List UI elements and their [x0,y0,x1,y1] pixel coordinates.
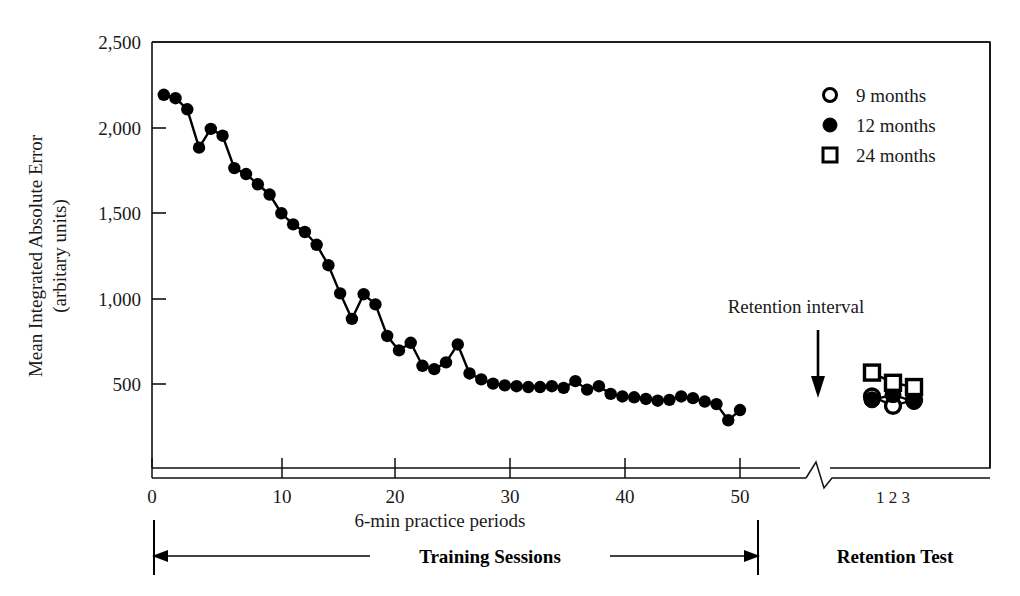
training-point [240,168,252,180]
training-point [722,414,734,426]
retention-trial-axis-labels: 1 2 3 [876,488,910,507]
legend-marker-open-circle [824,89,837,102]
training-point [522,381,534,393]
x-axis-tick-labels: 0 10 20 30 40 50 [147,486,749,507]
training-point [734,404,746,416]
training-point [557,382,569,394]
ret-12-months-point [864,392,880,408]
training-point [428,363,440,375]
x-tick-label-30: 30 [501,486,520,507]
y-tick-label-2000: 2,000 [98,118,141,139]
retention-interval-label: Retention interval [728,296,865,317]
training-point [381,330,393,342]
training-point [263,188,275,200]
retention-interval-annotation: Retention interval [728,296,865,398]
training-point [463,367,475,379]
phase-label-retention-test: Retention Test [837,546,954,567]
training-point [181,103,193,115]
y-axis-tick-labels: 2,500 2,000 1,500 1,000 500 [98,32,141,395]
x-tick-label-10: 10 [273,486,292,507]
legend: 9 months 12 months 24 months [823,85,936,166]
training-point [393,344,405,356]
training-point [357,288,369,300]
y-tick-label-500: 500 [113,374,142,395]
training-line [164,95,740,420]
x-tick-label-20: 20 [386,486,405,507]
ret-24-months-point [886,375,901,390]
training-point [228,162,240,174]
training-point [440,356,452,368]
training-point [275,207,287,219]
y-axis-title-line2: (arbitary units) [49,199,71,312]
training-point [593,380,605,392]
training-point [628,391,640,403]
training-point [581,383,593,395]
training-point [651,394,663,406]
training-point [675,390,687,402]
training-point [452,338,464,350]
x-tick-label-0: 0 [147,486,157,507]
training-point [169,92,181,104]
training-point [687,392,699,404]
y-tick-label-2500: 2,500 [98,32,141,53]
training-point [369,298,381,310]
x-axis-line [152,462,990,488]
ret-24-months-point [865,365,880,380]
training-point [663,394,675,406]
training-point [640,393,652,405]
training-point [216,130,228,142]
x-tick-label-50: 50 [731,486,750,507]
training-point [569,375,581,387]
training-point [252,178,264,190]
training-point [310,239,322,251]
y-tick-label-1000: 1,000 [98,289,141,310]
training-point [299,226,311,238]
legend-label-12-months: 12 months [856,115,936,136]
training-point [158,89,170,101]
training-point [193,141,205,153]
training-point [499,379,511,391]
training-point [510,380,522,392]
y-axis-title-line1: Mean Integrated Absolute Error [25,134,46,377]
training-point [616,390,628,402]
legend-label-9-months: 9 months [856,85,926,106]
legend-label-24-months: 24 months [856,145,936,166]
training-point [334,287,346,299]
y-tick-label-1500: 1,500 [98,203,141,224]
training-point [416,360,428,372]
y-axis-ticks [152,128,166,384]
training-point [322,259,334,271]
y-axis-title: Mean Integrated Absolute Error (arbitary… [25,134,71,377]
legend-marker-filled-circle [823,118,837,132]
training-point [699,395,711,407]
training-point [475,373,487,385]
training-point [205,123,217,135]
x-tick-label-40: 40 [616,486,635,507]
training-point [346,313,358,325]
training-point [534,381,546,393]
training-point [287,218,299,230]
axis-break-zigzag [806,462,990,488]
phase-label-training-sessions: Training Sessions [419,546,561,567]
x-axis-title: 6-min practice periods [355,510,526,531]
figure-container: 2,500 2,000 1,500 1,000 500 Mean Integra… [0,0,1020,596]
legend-marker-open-square [823,148,837,162]
training-point [604,388,616,400]
training-point [405,337,417,349]
training-point [487,377,499,389]
training-point [710,398,722,410]
line-chart: 2,500 2,000 1,500 1,000 500 Mean Integra… [0,0,1020,596]
series-training [158,89,747,427]
training-point [546,380,558,392]
ret-24-months-point [907,380,922,395]
retention-interval-arrow-head [811,376,825,398]
